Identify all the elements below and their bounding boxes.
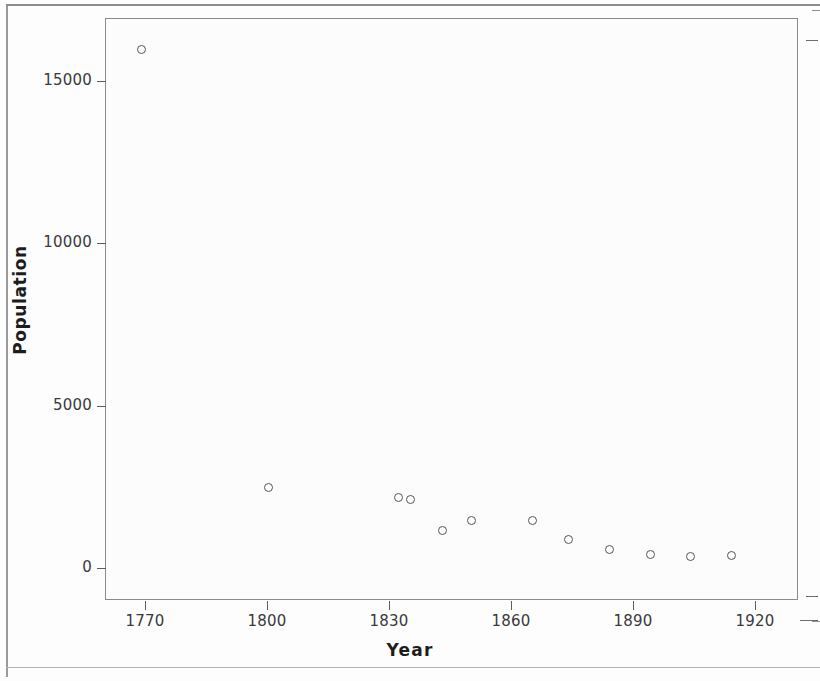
y-axis-tick-labels: 050001000015000 <box>26 0 92 681</box>
data-point-marker <box>438 526 447 535</box>
data-point-marker <box>564 535 573 544</box>
data-point-marker <box>727 551 736 560</box>
x-axis-tick <box>633 601 634 610</box>
plot-area-frame <box>105 18 798 600</box>
y-axis-tick-label: 10000 <box>30 233 92 251</box>
x-axis-tick <box>755 601 756 610</box>
y-axis-tick-label: 0 <box>30 558 92 576</box>
page-border-left <box>6 4 8 677</box>
data-point-marker <box>528 516 537 525</box>
y-axis-tick <box>97 568 106 569</box>
x-axis-tick-label: 1830 <box>349 612 429 630</box>
y-axis-tick-label: 5000 <box>30 396 92 414</box>
scatter-plot-surface <box>106 19 797 599</box>
x-axis-tick-label: 1770 <box>105 612 185 630</box>
data-point-marker <box>394 493 403 502</box>
data-point-marker <box>646 550 655 559</box>
data-point-marker <box>137 45 146 54</box>
x-axis-tick-label: 1800 <box>227 612 307 630</box>
y-axis-tick <box>97 243 106 244</box>
x-axis-tick <box>389 601 390 610</box>
x-axis-tick-label: 1920 <box>715 612 795 630</box>
chart-page: 050001000015000 Population 1770180018301… <box>0 0 820 681</box>
page-border-bottom <box>6 667 820 668</box>
x-axis-tick <box>511 601 512 610</box>
data-point-marker <box>264 483 273 492</box>
x-axis-tick-label: 1890 <box>593 612 673 630</box>
data-point-marker <box>605 545 614 554</box>
x-axis-tick-label: 1860 <box>471 612 551 630</box>
y-axis-title: Population <box>10 220 30 380</box>
outer-frame-tick-top <box>806 40 818 41</box>
x-axis-tick <box>145 601 146 610</box>
y-axis-tick-label: 15000 <box>30 71 92 89</box>
page-border-top <box>6 4 820 6</box>
outer-figure-frame <box>812 10 820 622</box>
x-axis-tick <box>267 601 268 610</box>
outer-frame-tick-bottom <box>806 596 818 597</box>
data-point-marker <box>467 516 476 525</box>
data-point-marker <box>406 495 415 504</box>
x-axis-title: Year <box>0 640 820 660</box>
y-axis-tick <box>97 81 106 82</box>
outer-frame-tick-xlabel <box>800 620 818 621</box>
data-point-marker <box>686 552 695 561</box>
y-axis-tick <box>97 406 106 407</box>
